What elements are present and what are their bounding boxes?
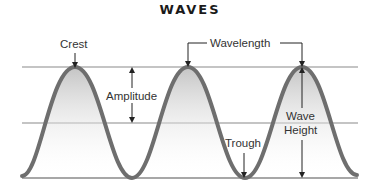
- wave-height-label-line1: Wave: [286, 110, 315, 123]
- wavelength-bracket-right: [280, 43, 302, 64]
- trough-label: Trough: [225, 137, 261, 150]
- amplitude-label: Amplitude: [106, 90, 157, 103]
- wave-diagram: [0, 0, 380, 191]
- wavelength-label: Wavelength: [210, 37, 270, 50]
- wave-height-label-line2: Height: [284, 124, 317, 137]
- crest-label: Crest: [60, 38, 87, 51]
- wavelength-bracket-left: [188, 43, 207, 64]
